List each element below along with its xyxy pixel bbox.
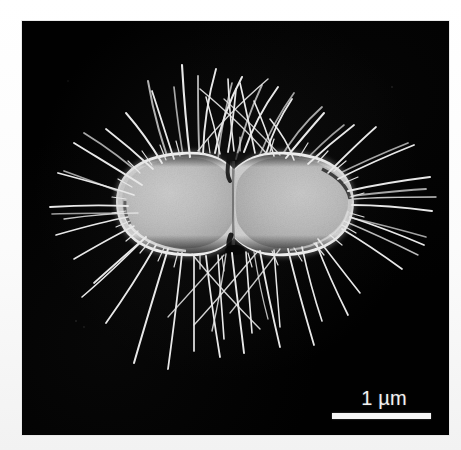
scale-bar: 1 µm <box>332 387 436 419</box>
micrograph-figure: 1 µm <box>0 0 461 450</box>
scale-bar-label: 1 µm <box>332 387 436 409</box>
micrograph-image: 1 µm <box>22 21 449 435</box>
scale-bar-line <box>332 413 431 419</box>
bacterium-illustration <box>22 21 449 435</box>
